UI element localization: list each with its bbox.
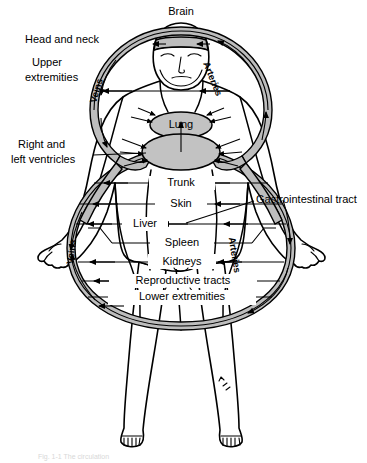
bed-label-trunk: Trunk: [167, 176, 195, 188]
lung-label: Lung: [169, 118, 193, 130]
head-and-neck-label: Head and neck: [25, 33, 99, 45]
bed-label-lower-extremities: Lower extremities: [139, 290, 226, 302]
ventricles-label-line1: Right and: [18, 138, 65, 150]
bed-label-skin: Skin: [170, 197, 191, 209]
bed-row-lower-extremities: Lower extremities: [88, 290, 272, 306]
brain-label: Brain: [168, 5, 194, 17]
bed-label-liver: Liver: [133, 217, 157, 229]
circulation-diagram: Trunk Skin Liver Spleen: [0, 0, 367, 463]
bed-label-kidneys: Kidneys: [162, 255, 202, 267]
circulation-figure: Trunk Skin Liver Spleen: [0, 0, 367, 463]
upper-extremities-label-line2: extremities: [25, 71, 79, 83]
bed-row-kidneys: Kidneys: [78, 254, 284, 271]
gastrointestinal-label: Gastrointestinal tract: [256, 193, 357, 205]
ventricles-label-line2: left ventricles: [11, 153, 76, 165]
upper-extremities-label-line1: Upper: [32, 56, 62, 68]
organ-labels: Lung: [169, 118, 193, 130]
figure-caption: Fig. 1-1 The circulation: [38, 453, 109, 461]
bed-label-spleen: Spleen: [165, 236, 199, 248]
bed-label-reproductive: Reproductive tracts: [136, 274, 231, 286]
